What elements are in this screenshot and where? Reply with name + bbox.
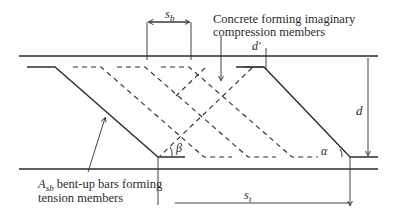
bent-up-bar-left bbox=[27, 67, 185, 157]
sb-label: sb bbox=[165, 8, 174, 22]
compression-strut bbox=[160, 68, 252, 156]
st-label: st bbox=[244, 189, 251, 203]
d-prime-label: d' bbox=[252, 40, 261, 53]
tension-note: Asb bent-up bars forming tension members bbox=[38, 178, 162, 205]
tension-note-line2: tension members bbox=[38, 192, 162, 205]
tension-leader bbox=[88, 118, 105, 172]
dashed-bar-2 bbox=[117, 67, 276, 157]
tension-note-line1: Asb bent-up bars forming bbox=[38, 178, 162, 192]
compression-note: Concrete forming imaginary compression m… bbox=[213, 13, 355, 39]
alpha-arc bbox=[340, 149, 342, 157]
dashed-bar-3 bbox=[161, 67, 318, 157]
compression-strut-2 bbox=[176, 68, 205, 96]
beta-label: β bbox=[176, 142, 182, 155]
d-label: d bbox=[356, 104, 363, 117]
alpha-label: α bbox=[321, 145, 327, 158]
compression-note-line2: compression members bbox=[213, 26, 355, 39]
beta-arc bbox=[170, 147, 172, 156]
